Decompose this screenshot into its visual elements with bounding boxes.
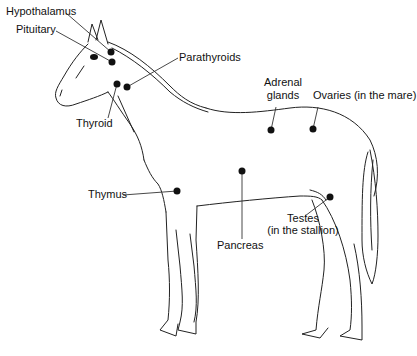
adrenal-glands-dot xyxy=(268,127,275,134)
thymus-dot xyxy=(174,188,181,195)
eye-icon xyxy=(90,54,98,60)
parathyroids-label: Parathyroids xyxy=(179,52,241,63)
thyroid-dot xyxy=(114,81,121,88)
horse-outline xyxy=(55,20,378,340)
thyroid-label: Thyroid xyxy=(76,118,113,129)
parathyroids-dot xyxy=(124,84,131,91)
thyroid-leader xyxy=(108,84,117,118)
testes-dot xyxy=(327,194,334,201)
thymus-label: Thymus xyxy=(88,189,127,200)
parathyroids-leader xyxy=(127,58,178,87)
adrenal-glands-label-line1: Adrenal xyxy=(261,77,305,88)
gland-markers xyxy=(108,49,334,201)
horse-endocrine-diagram: Hypothalamus Pituitary Parathyroids Thyr… xyxy=(0,0,417,356)
testes-label: Testes (in the stallion) xyxy=(247,213,359,236)
ovaries-label: Ovaries (in the mare) xyxy=(313,90,416,101)
pituitary-leader xyxy=(56,31,112,62)
thymus-leader xyxy=(123,191,177,195)
pancreas-label: Pancreas xyxy=(217,240,263,251)
hypothalamus-label: Hypothalamus xyxy=(6,6,76,17)
adrenal-glands-label-line2: glands xyxy=(261,90,305,101)
ovaries-dot xyxy=(310,126,317,133)
pituitary-dot xyxy=(109,59,116,66)
testes-label-line1: Testes xyxy=(247,213,359,224)
hypothalamus-dot xyxy=(108,49,115,56)
adrenal-glands-label: Adrenal glands xyxy=(261,77,305,101)
testes-label-line2: (in the stallion) xyxy=(247,225,359,236)
pituitary-label: Pituitary xyxy=(16,24,56,35)
pancreas-dot xyxy=(239,168,246,175)
